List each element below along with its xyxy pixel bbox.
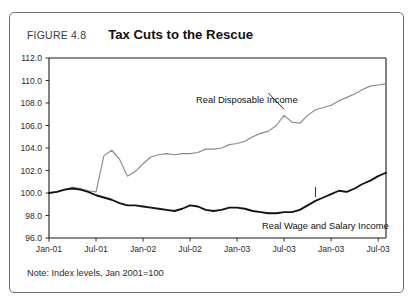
line-chart: 96.098.0100.0102.0104.0106.0108.0110.011… <box>10 13 405 294</box>
chart-plot-area: 96.098.0100.0102.0104.0106.0108.0110.011… <box>10 13 405 294</box>
y-tick-label: 108.0 <box>20 98 42 108</box>
y-tick-label: 106.0 <box>20 121 42 131</box>
y-tick-label: 96.0 <box>25 233 42 243</box>
y-tick-label: 100.0 <box>20 188 42 198</box>
x-tick-label: Jul-03 <box>272 244 296 254</box>
annotation-real-wage-and-salary-income: Real Wage and Salary Income <box>262 220 389 231</box>
x-tick-label: Jan-03 <box>318 244 344 254</box>
x-axis-ticks: Jan-01Jul-01Jan-02Jul-02Jan-03Jul-03Jan-… <box>36 238 390 254</box>
x-tick-label: Jul-02 <box>178 244 202 254</box>
y-tick-label: 110.0 <box>21 76 42 86</box>
y-tick-label: 112.0 <box>21 53 42 63</box>
y-tick-label: 102.0 <box>20 166 42 176</box>
x-tick-label: Jan-03 <box>224 244 250 254</box>
series-line-real-wage-and-salary-income <box>49 173 386 214</box>
y-tick-label: 104.0 <box>20 143 42 153</box>
y-axis-ticks: 96.098.0100.0102.0104.0106.0108.0110.011… <box>20 53 49 243</box>
y-tick-label: 98.0 <box>25 211 42 221</box>
figure-card: FIGURE 4.8 Tax Cuts to the Rescue 96.098… <box>9 12 404 293</box>
x-tick-label: Jul-03 <box>366 244 390 254</box>
x-tick-label: Jan-02 <box>130 244 156 254</box>
annotation-real-disposable-income: Real Disposable Income <box>196 94 298 105</box>
x-tick-label: Jan-01 <box>36 244 62 254</box>
x-tick-label: Jul-01 <box>84 244 108 254</box>
chart-footnote: Note: Index levels, Jan 2001=100 <box>27 268 164 278</box>
